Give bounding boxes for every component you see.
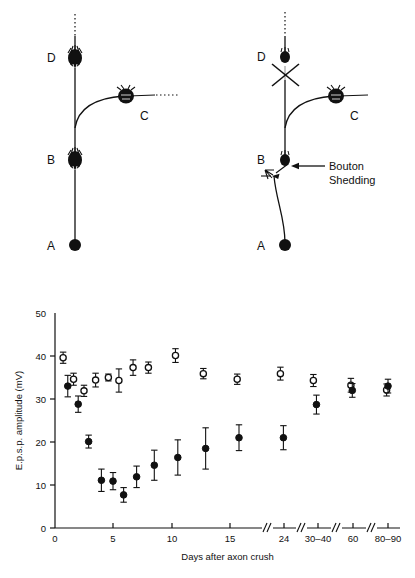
data-point[interactable] <box>85 435 92 448</box>
marker-open-circle[interactable] <box>130 365 136 371</box>
y-tick-label: 20 <box>35 437 46 448</box>
data-point[interactable] <box>151 450 158 480</box>
axis-break-mark <box>331 523 342 532</box>
marker-open-circle[interactable] <box>105 374 111 380</box>
data-point[interactable] <box>175 440 182 475</box>
x-tick-label: 5 <box>110 533 115 544</box>
marker-filled-circle[interactable] <box>236 434 243 441</box>
data-point[interactable] <box>234 374 240 384</box>
data-point[interactable] <box>145 362 151 373</box>
marker-open-circle[interactable] <box>234 376 240 382</box>
data-point[interactable] <box>75 396 82 412</box>
data-point[interactable] <box>280 426 287 450</box>
marker-open-circle[interactable] <box>81 388 87 394</box>
data-point[interactable] <box>277 367 283 380</box>
data-point[interactable] <box>236 425 243 451</box>
data-point[interactable] <box>202 428 209 469</box>
x-tick-label: 15 <box>225 533 236 544</box>
marker-filled-circle[interactable] <box>151 462 158 469</box>
marker-open-circle[interactable] <box>172 352 178 358</box>
marker-filled-circle[interactable] <box>98 477 105 484</box>
y-tick-label: 50 <box>35 308 46 319</box>
data-point[interactable] <box>200 368 206 378</box>
marker-filled-circle[interactable] <box>202 445 209 452</box>
x-tick-label: 24 <box>279 533 290 544</box>
marker-open-circle[interactable] <box>277 371 283 377</box>
marker-open-circle[interactable] <box>310 377 316 383</box>
data-point[interactable] <box>92 373 98 387</box>
x-tick-label: 80–90 <box>375 533 401 544</box>
data-point[interactable] <box>105 374 111 381</box>
y-tick-label: 30 <box>35 394 46 405</box>
marker-open-circle[interactable] <box>200 371 206 377</box>
series-filled-circles <box>64 375 391 502</box>
marker-open-circle[interactable] <box>116 377 122 383</box>
marker-filled-circle[interactable] <box>120 492 127 499</box>
data-point[interactable] <box>60 352 66 363</box>
marker-filled-circle[interactable] <box>280 434 287 441</box>
x-tick-label: 60 <box>348 533 359 544</box>
data-point[interactable] <box>310 374 316 386</box>
marker-open-circle[interactable] <box>60 355 66 361</box>
marker-filled-circle[interactable] <box>85 438 92 445</box>
axis-break-mark <box>262 523 273 532</box>
y-tick-label: 10 <box>35 480 46 491</box>
epsp-amplitude-scatter-chart: 01020304050E.p.s.p. amplitude (mV)051015… <box>0 0 415 578</box>
marker-filled-circle[interactable] <box>175 454 182 461</box>
marker-filled-circle[interactable] <box>313 401 320 408</box>
data-point[interactable] <box>120 488 127 503</box>
marker-filled-circle[interactable] <box>75 401 82 408</box>
chart-plot-area: 01020304050E.p.s.p. amplitude (mV)051015… <box>13 308 401 563</box>
x-tick-label: 30–40 <box>305 533 331 544</box>
data-point[interactable] <box>313 395 320 414</box>
data-point[interactable] <box>98 469 105 491</box>
marker-filled-circle[interactable] <box>110 478 117 485</box>
marker-open-circle[interactable] <box>145 365 151 371</box>
data-point[interactable] <box>130 360 136 375</box>
axis-break-mark <box>296 523 307 532</box>
x-axis-title: Days after axon crush <box>181 551 273 562</box>
marker-open-circle[interactable] <box>93 377 99 383</box>
marker-filled-circle[interactable] <box>133 474 140 481</box>
marker-filled-circle[interactable] <box>349 387 356 394</box>
x-tick-label: 0 <box>52 533 57 544</box>
x-tick-label: 10 <box>167 533 178 544</box>
marker-open-circle[interactable] <box>70 376 76 382</box>
marker-filled-circle[interactable] <box>64 383 71 390</box>
y-tick-label: 0 <box>41 523 46 534</box>
axis-break-mark <box>366 523 377 532</box>
y-tick-label: 40 <box>35 351 46 362</box>
figure-root: D B C A <box>0 0 415 578</box>
data-point[interactable] <box>172 349 178 363</box>
data-point[interactable] <box>81 385 87 396</box>
series-open-circles <box>60 349 390 397</box>
marker-filled-circle[interactable] <box>385 383 392 390</box>
data-point[interactable] <box>70 373 76 385</box>
data-point[interactable] <box>116 369 122 392</box>
data-point[interactable] <box>133 466 140 488</box>
data-point[interactable] <box>110 473 117 490</box>
y-axis-title: E.p.s.p. amplitude (mV) <box>13 371 24 470</box>
